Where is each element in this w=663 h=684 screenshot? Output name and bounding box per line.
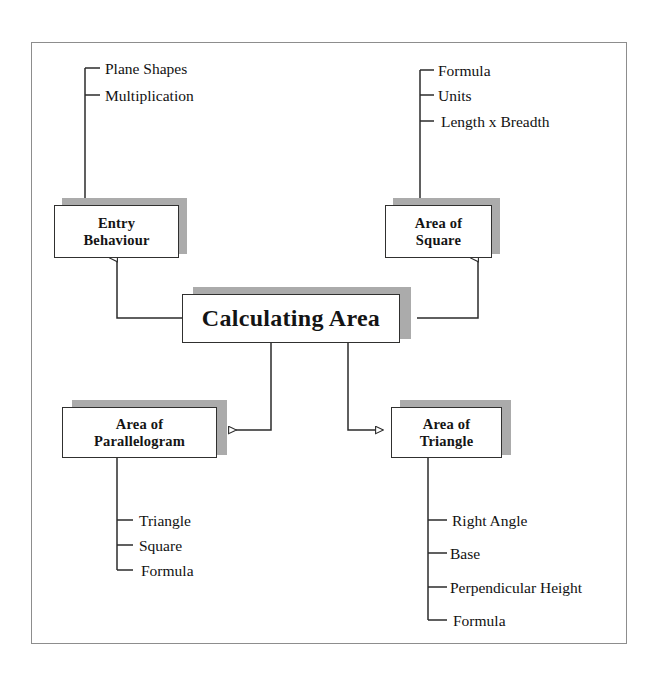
area-of-parallelogram-line-2: Parallelogram — [94, 433, 185, 449]
calculating-area-label: Calculating Area — [202, 305, 380, 332]
leaf-square-units: Units — [438, 88, 472, 104]
diagram-canvas: Entry Behaviour Area of Square Calculati… — [0, 0, 663, 684]
area-of-parallelogram-line-1: Area of — [94, 416, 185, 432]
leaf-parallelogram-square: Square — [139, 538, 182, 554]
node-entry-behaviour[interactable]: Entry Behaviour — [54, 205, 179, 258]
entry-behaviour-line-1: Entry — [83, 215, 149, 231]
node-calculating-area[interactable]: Calculating Area — [182, 294, 400, 343]
area-of-triangle-line-1: Area of — [420, 416, 474, 432]
leaf-triangle-formula: Formula — [453, 613, 506, 629]
node-area-of-triangle[interactable]: Area of Triangle — [391, 407, 502, 458]
entry-behaviour-line-2: Behaviour — [83, 232, 149, 248]
node-area-of-parallelogram[interactable]: Area of Parallelogram — [62, 407, 217, 458]
leaf-square-length-x-breadth: Length x Breadth — [441, 114, 549, 130]
area-of-square-line-1: Area of — [415, 215, 462, 231]
leaf-parallelogram-triangle: Triangle — [139, 513, 191, 529]
leaf-triangle-base: Base — [450, 546, 480, 562]
node-area-of-square[interactable]: Area of Square — [385, 205, 492, 258]
leaf-triangle-perpendicular-height: Perpendicular Height — [450, 580, 582, 596]
leaf-entry-plane-shapes: Plane Shapes — [105, 61, 187, 77]
area-of-square-line-2: Square — [415, 232, 462, 248]
leaf-parallelogram-formula: Formula — [141, 563, 194, 579]
area-of-triangle-line-2: Triangle — [420, 433, 474, 449]
leaf-entry-multiplication: Multiplication — [105, 88, 194, 104]
leaf-triangle-right-angle: Right Angle — [452, 513, 527, 529]
leaf-square-formula: Formula — [438, 63, 491, 79]
diagram-frame — [31, 42, 627, 644]
